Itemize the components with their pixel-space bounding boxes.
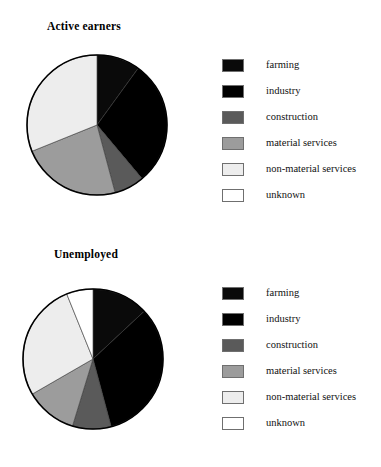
legend-swatch-unknown bbox=[222, 417, 244, 430]
legend-label-non-material-services: non-material services bbox=[266, 392, 356, 403]
legend-label-construction: construction bbox=[266, 112, 318, 123]
legend-label-unknown: unknown bbox=[266, 190, 305, 201]
pie-unemployed bbox=[20, 286, 166, 432]
legend-label-unknown: unknown bbox=[266, 418, 305, 429]
pie-svg-active-earners bbox=[24, 52, 170, 198]
legend-item-material-services[interactable]: material services bbox=[222, 358, 381, 384]
legend-swatch-unknown bbox=[222, 189, 244, 202]
legend-swatch-non-material-services bbox=[222, 163, 244, 176]
legend-swatch-material-services bbox=[222, 137, 244, 150]
chart-title-active-earners: Active earners bbox=[47, 20, 121, 32]
pie-active-earners bbox=[24, 52, 170, 198]
chart-title-unemployed: Unemployed bbox=[54, 248, 118, 260]
legend-swatch-industry bbox=[222, 313, 244, 326]
legend-swatch-industry bbox=[222, 85, 244, 98]
legend-swatch-construction bbox=[222, 111, 244, 124]
legend-label-material-services: material services bbox=[266, 366, 337, 377]
legend-label-industry: industry bbox=[266, 86, 300, 97]
legend-item-non-material-services[interactable]: non-material services bbox=[222, 156, 381, 182]
legend-item-construction[interactable]: construction bbox=[222, 332, 381, 358]
legend-item-farming[interactable]: farming bbox=[222, 52, 381, 78]
legend-swatch-farming bbox=[222, 287, 244, 300]
legend-item-farming[interactable]: farming bbox=[222, 280, 381, 306]
legend-swatch-construction bbox=[222, 339, 244, 352]
legend-unemployed: farming industry construction material s… bbox=[222, 280, 381, 436]
legend-item-non-material-services[interactable]: non-material services bbox=[222, 384, 381, 410]
legend-item-unknown[interactable]: unknown bbox=[222, 182, 381, 208]
legend-item-industry[interactable]: industry bbox=[222, 78, 381, 104]
legend-swatch-material-services bbox=[222, 365, 244, 378]
legend-label-industry: industry bbox=[266, 314, 300, 325]
legend-item-industry[interactable]: industry bbox=[222, 306, 381, 332]
legend-label-material-services: material services bbox=[266, 138, 337, 149]
legend-label-farming: farming bbox=[266, 288, 299, 299]
legend-active-earners: farming industry construction material s… bbox=[222, 52, 381, 208]
legend-swatch-farming bbox=[222, 59, 244, 72]
pie-svg-unemployed bbox=[20, 286, 166, 432]
legend-item-unknown[interactable]: unknown bbox=[222, 410, 381, 436]
legend-label-farming: farming bbox=[266, 60, 299, 71]
legend-swatch-non-material-services bbox=[222, 391, 244, 404]
legend-item-material-services[interactable]: material services bbox=[222, 130, 381, 156]
legend-item-construction[interactable]: construction bbox=[222, 104, 381, 130]
legend-label-non-material-services: non-material services bbox=[266, 164, 356, 175]
legend-label-construction: construction bbox=[266, 340, 318, 351]
